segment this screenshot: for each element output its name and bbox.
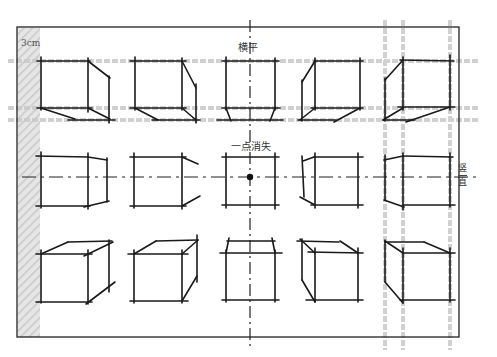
vertical-label: 竖 直 [456, 164, 468, 187]
cube-r1c5 [383, 55, 455, 122]
cube-r2c1 [36, 152, 109, 209]
cube-r2c4 [300, 153, 363, 208]
scale-label: 3cm [21, 39, 40, 48]
cube-r3c5 [385, 240, 455, 303]
cube-r3c3 [220, 238, 282, 302]
margin-hatch [18, 28, 40, 337]
vertical-label-bottom: 直 [456, 178, 468, 187]
cube-r2c5 [384, 153, 455, 210]
vertical-label-divider [458, 175, 467, 176]
diagram-svg [0, 0, 497, 357]
vanishing-point-label: 一点消失 [231, 142, 271, 152]
cube-r3c2 [128, 235, 198, 303]
cube-r1c2 [130, 57, 200, 123]
perspective-diagram [0, 0, 497, 357]
cube-r2c2 [130, 153, 200, 209]
horizontal-label: 横平 [238, 43, 258, 53]
cube-r3c1 [36, 240, 115, 304]
cube-r3c4 [297, 239, 363, 302]
cube-r1c1 [37, 57, 115, 123]
vanishing-point [247, 174, 253, 180]
cubes [36, 55, 455, 304]
cube-r1c4 [298, 58, 363, 122]
vertical-label-top: 竖 [456, 164, 468, 173]
